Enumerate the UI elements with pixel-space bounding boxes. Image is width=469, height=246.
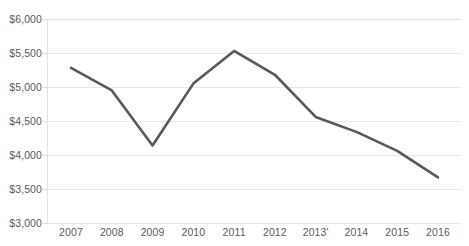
cropped-footnote-text <box>6 240 156 246</box>
y-axis-tick <box>43 19 48 20</box>
line-chart: $6,000$5,500$5,000$4,500$4,000$3,500$3,0… <box>0 0 469 246</box>
y-axis-tick <box>43 223 48 224</box>
y-axis-tick <box>43 155 48 156</box>
y-axis-tick <box>43 87 48 88</box>
data-series-line <box>0 0 469 246</box>
y-axis-tick <box>43 189 48 190</box>
y-axis-tick <box>43 53 48 54</box>
y-axis-tick <box>43 121 48 122</box>
